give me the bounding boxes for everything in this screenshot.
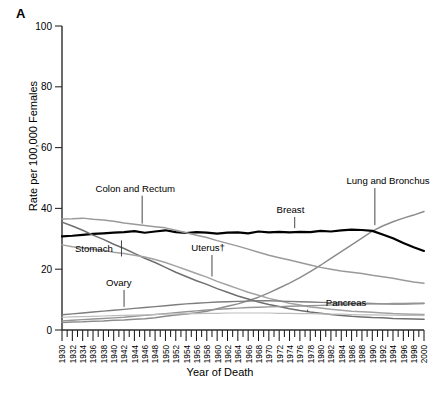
annotation-breast: Breast	[277, 204, 305, 215]
x-tick-label: 1948	[151, 345, 160, 364]
x-tick-label: 1952	[172, 345, 181, 364]
x-tick-label: 1978	[307, 345, 316, 364]
x-tick-label: 2000	[420, 345, 429, 364]
y-axis-ticks: 020406080100	[35, 21, 62, 336]
annotation-pancreas: Pancreas	[326, 297, 367, 308]
x-tick-label: 1994	[389, 345, 398, 364]
x-axis-ticks: 1930193219341936193819401942194419461948…	[58, 330, 429, 363]
x-tick-label: 1990	[369, 345, 378, 364]
x-tick-label: 1986	[348, 345, 357, 364]
x-tick-label: 1992	[379, 345, 388, 364]
x-tick-label: 1974	[286, 345, 295, 364]
x-tick-label: 1988	[358, 345, 367, 364]
x-tick-label: 1934	[79, 345, 88, 364]
x-tick-label: 1932	[69, 345, 78, 364]
x-tick-label: 1968	[255, 345, 264, 364]
y-tick-label: 40	[41, 203, 53, 214]
x-tick-label: 1954	[183, 345, 192, 364]
x-tick-label: 1936	[89, 345, 98, 364]
annotation-ovary: Ovary	[106, 277, 132, 288]
y-tick-label: 60	[41, 142, 53, 153]
annotation-lung-and-bronchus: Lung and Bronchus	[346, 175, 429, 186]
y-tick-label: 20	[41, 264, 53, 275]
x-tick-label: 1938	[100, 345, 109, 364]
x-tick-label: 1950	[162, 345, 171, 364]
x-tick-label: 1958	[203, 345, 212, 364]
x-tick-label: 1960	[214, 345, 223, 364]
x-tick-label: 1962	[224, 345, 233, 364]
series-line-stomach	[62, 222, 424, 319]
x-tick-label: 1942	[120, 345, 129, 364]
x-tick-label: 1956	[193, 345, 202, 364]
series-line-lower-series-c	[62, 313, 424, 317]
annotation-colon-and-rectum: Colon and Rectum	[96, 183, 175, 194]
x-tick-label: 1966	[245, 345, 254, 364]
x-tick-label: 1982	[327, 345, 336, 364]
x-tick-label: 1946	[141, 345, 150, 364]
x-tick-label: 1944	[131, 345, 140, 364]
figure-panel-a: A Rate per 100,000 Females Year of Death…	[0, 0, 440, 393]
series-line-colon-and-rectum	[62, 218, 424, 283]
annotation-stomach: Stomach	[75, 243, 113, 254]
x-tick-label: 1964	[234, 345, 243, 364]
series-annotations: Colon and RectumStomachOvaryUterus†Breas…	[75, 175, 430, 312]
annotation-uterus: Uterus†	[191, 242, 225, 253]
x-tick-label: 1996	[400, 345, 409, 364]
x-tick-label: 1972	[276, 345, 285, 364]
data-series-group	[62, 211, 424, 322]
x-tick-label: 1980	[317, 345, 326, 364]
series-line-lung-and-bronchus	[62, 211, 424, 322]
y-tick-label: 80	[41, 81, 53, 92]
x-tick-label: 1970	[265, 345, 274, 364]
x-tick-label: 1930	[58, 345, 67, 364]
line-chart: 020406080100 193019321934193619381940194…	[0, 0, 440, 393]
x-tick-label: 1984	[338, 345, 347, 364]
x-tick-label: 1998	[410, 345, 419, 364]
x-tick-label: 1976	[296, 345, 305, 364]
y-tick-label: 100	[35, 21, 52, 32]
x-tick-label: 1940	[110, 345, 119, 364]
y-tick-label: 0	[46, 325, 52, 336]
